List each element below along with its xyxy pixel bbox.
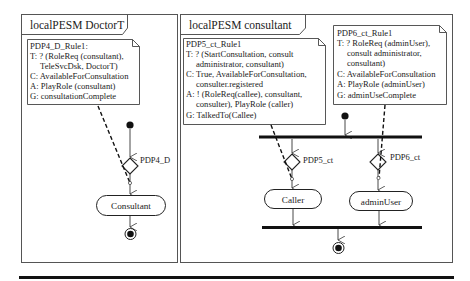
fork-bar — [259, 136, 422, 139]
note-anchor — [379, 105, 385, 178]
note-pdp5: PDP5_ct_Rule1 T: ? (StartConsultation, c… — [184, 39, 326, 125]
decision-node-pdp6 — [370, 154, 386, 170]
initial-node — [341, 112, 348, 119]
flow-doctor: PDP4_D Consultant — [97, 106, 171, 240]
frame-title: localPESM consultant — [189, 19, 292, 31]
note-anchor — [98, 106, 130, 183]
decision-label: PDP6_ct — [390, 152, 421, 162]
decision-label: PDP5_ct — [303, 155, 334, 165]
join-bar — [262, 226, 422, 229]
bottom-rule — [19, 276, 454, 279]
decision-node-pdp4 — [122, 158, 138, 174]
activity-label: Consultant — [111, 201, 151, 211]
note-anchor — [271, 125, 292, 179]
flow-consultant: PDP5_ct Caller PDP6_ct adminUser — [259, 105, 422, 254]
note-pdp4: PDP4_D_Rule1: T: ? (RoleReq (consultant)… — [28, 40, 140, 105]
initial-node — [126, 121, 133, 128]
note-pdp6: PDP6_ct_Rule1 T: ? RoleReq (adminUser), … — [334, 26, 447, 105]
activity-label: Caller — [282, 195, 304, 205]
diagram-canvas: localPESM DoctorT PDP4_D_Rule1: T: ? (Ro… — [0, 0, 470, 281]
activity-label: adminUser — [361, 197, 401, 207]
frame-title: localPESM DoctorT — [30, 19, 124, 31]
decision-node-pdp5 — [284, 154, 300, 170]
decision-label: PDP4_D — [140, 155, 170, 165]
